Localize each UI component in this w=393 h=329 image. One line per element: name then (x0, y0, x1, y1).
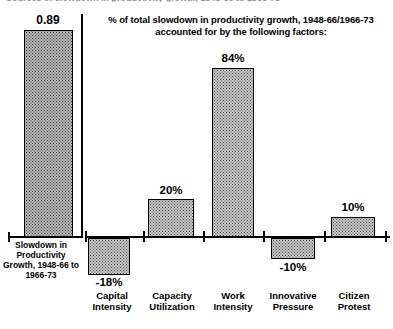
bar-value-citizen-protest: 10% (320, 201, 386, 213)
category-label-innovative-pressure-line-2: Pressure (259, 301, 327, 312)
category-label-innovative-pressure: Innovative Pressure (259, 290, 327, 312)
x-axis-tick-4 (324, 231, 326, 242)
category-label-capital-intensity-line-1: Capital (78, 290, 146, 301)
category-label-work-intensity-line-1: Work (199, 290, 267, 301)
category-label-capacity-utilization: Capacity Utilization (138, 290, 206, 312)
bar-value-work-intensity: 84% (200, 52, 266, 64)
bar-work-intensity (212, 68, 254, 237)
bar-value-capital-intensity: -18% (76, 276, 142, 288)
category-label-capital-intensity-line-2: Intensity (78, 301, 146, 312)
category-label-work-intensity: Work Intensity (199, 290, 267, 312)
bar-citizen-protest (331, 217, 375, 237)
slowdown-category-label: Slowdown in Productivity Growth, 1948-66… (2, 240, 80, 280)
bar-capital-intensity (88, 238, 130, 275)
x-axis-tick-5 (385, 231, 387, 242)
factors-panel: -18% 20% 84% -10% 10% Capital Intensity (81, 0, 393, 329)
slowdown-axis-line (8, 236, 81, 238)
x-axis-tick-0 (85, 231, 87, 242)
bar-chart: Sources of slowdown in productivity grow… (0, 0, 393, 329)
category-label-citizen-protest-line-2: Protest (320, 301, 388, 312)
bar-capacity-utilization (148, 199, 194, 237)
x-axis-line (85, 236, 390, 238)
category-label-work-intensity-line-2: Intensity (199, 301, 267, 312)
slowdown-panel: 0.89 Slowdown in Productivity Growth, 19… (0, 0, 81, 329)
bar-value-innovative-pressure: -10% (260, 261, 326, 273)
slowdown-bar (24, 30, 73, 237)
slowdown-value-label: 0.89 (14, 13, 82, 27)
x-axis-tick-2 (203, 231, 205, 242)
bar-innovative-pressure (271, 238, 315, 259)
category-label-innovative-pressure-line-1: Innovative (259, 290, 327, 301)
bar-value-capacity-utilization: 20% (138, 184, 204, 196)
category-label-citizen-protest-line-1: Citizen (320, 290, 388, 301)
x-axis-tick-3 (263, 231, 265, 242)
category-label-capital-intensity: Capital Intensity (78, 290, 146, 312)
category-label-capacity-utilization-line-1: Capacity (138, 290, 206, 301)
x-axis-tick-1 (143, 231, 145, 242)
category-label-capacity-utilization-line-2: Utilization (138, 301, 206, 312)
bars-layer: -18% 20% 84% -10% 10% (81, 0, 393, 329)
category-label-citizen-protest: Citizen Protest (320, 290, 388, 312)
